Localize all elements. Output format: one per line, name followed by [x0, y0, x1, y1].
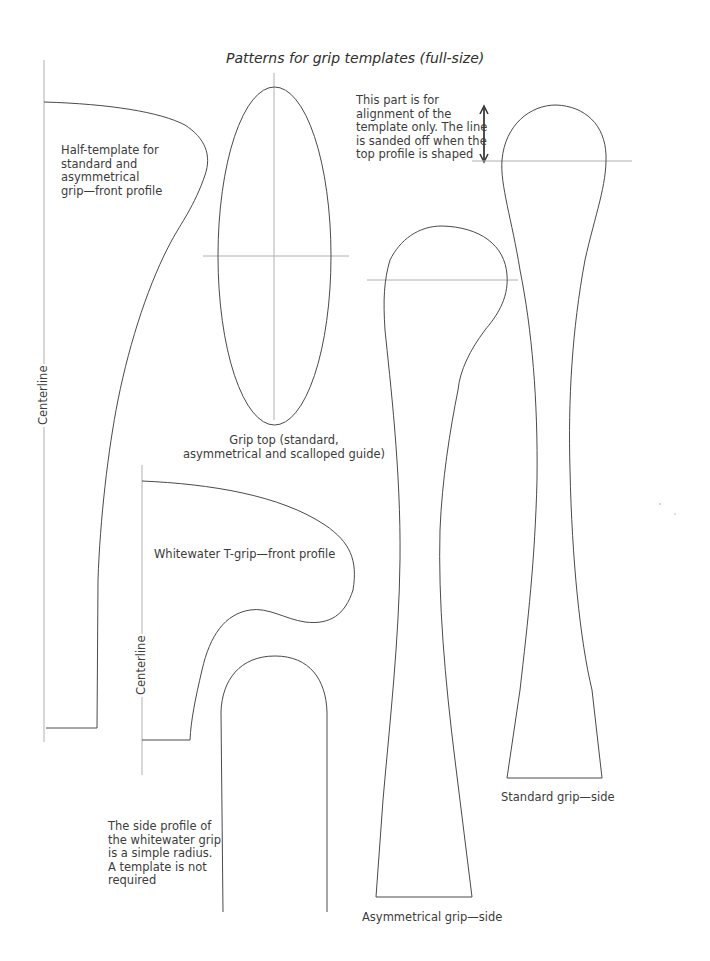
- whitewater-side-radius: [221, 656, 327, 912]
- standard-grip-side: [472, 105, 632, 778]
- asymmetrical-grip-outline: [376, 226, 507, 897]
- asymmetrical-grip-side-label: Asymmetrical grip—side: [362, 911, 502, 925]
- grip-top-oval: [203, 73, 349, 425]
- grip-templates-page: Patterns for grip templates (full-size) …: [0, 0, 710, 961]
- half-template-label: Half-template for standard and asymmetri…: [61, 144, 162, 198]
- standard-grip-outline: [502, 105, 606, 778]
- standard-grip-side-label: Standard grip—side: [501, 791, 615, 805]
- centerline-label-1: Centerline: [36, 364, 50, 427]
- page-title: Patterns for grip templates (full-size): [226, 50, 484, 66]
- whitewater-front-label: Whitewater T-grip—front profile: [154, 548, 335, 562]
- centerline-label-2: Centerline: [134, 634, 148, 697]
- asymmetrical-grip-side: [367, 226, 518, 897]
- whitewater-front-outline: [142, 481, 354, 740]
- alignment-note-label: This part is for alignment of the templa…: [356, 94, 487, 162]
- grip-top-label: Grip top (standard, asymmetrical and sca…: [183, 434, 385, 461]
- whitewater-side-outline: [221, 656, 327, 912]
- whitewater-t-grip-front: [142, 465, 354, 775]
- whitewater-side-note: The side profile of the whitewater grip …: [108, 820, 221, 888]
